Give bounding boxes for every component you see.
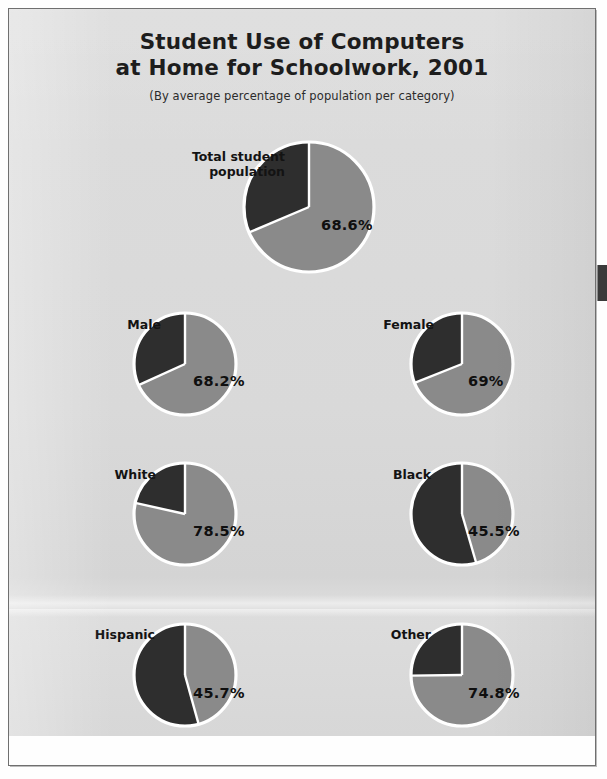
pie-category-label-hispanic: Hispanic <box>51 627 155 642</box>
pie-divider-other-1 <box>411 675 462 676</box>
pie-category-label-white: White <box>64 467 156 482</box>
pie-category-label-female: Female <box>342 317 434 332</box>
chart-title-line-1: Student Use of Computers <box>140 29 465 54</box>
pie-category-label-line-black-0: Black <box>339 467 431 482</box>
scan-band-highlight <box>9 609 595 617</box>
chart-subtitle: (By average percentage of population per… <box>9 89 595 103</box>
pie-category-label-line-total-1: population <box>167 164 285 179</box>
pie-category-label-other: Other <box>339 627 431 642</box>
pie-value-label-white: 78.5% <box>193 523 245 539</box>
pie-category-label-line-other-0: Other <box>339 627 431 642</box>
pie-category-label-line-white-0: White <box>64 467 156 482</box>
scan-band-middle <box>9 595 595 609</box>
pie-value-label-total: 68.6% <box>321 217 373 233</box>
pie-category-label-black: Black <box>339 467 431 482</box>
pie-value-label-female: 69% <box>468 373 504 389</box>
pie-value-label-hispanic: 45.7% <box>193 685 245 701</box>
page-edge-artifact <box>597 265 607 301</box>
pie-value-label-black: 45.5% <box>468 523 520 539</box>
pie-value-label-other: 74.8% <box>468 685 520 701</box>
pie-category-label-total: Total studentpopulation <box>167 149 285 179</box>
pie-category-label-line-total-0: Total student <box>167 149 285 164</box>
pie-category-label-line-male-0: Male <box>69 317 161 332</box>
pie-category-label-line-hispanic-0: Hispanic <box>51 627 155 642</box>
chart-title: Student Use of Computers at Home for Sch… <box>9 29 595 81</box>
pie-value-label-male: 68.2% <box>193 373 245 389</box>
pie-category-label-line-female-0: Female <box>342 317 434 332</box>
chart-title-line-2: at Home for Schoolwork, 2001 <box>9 55 595 81</box>
pie-category-label-male: Male <box>69 317 161 332</box>
chart-panel: Student Use of Computers at Home for Sch… <box>9 9 595 736</box>
